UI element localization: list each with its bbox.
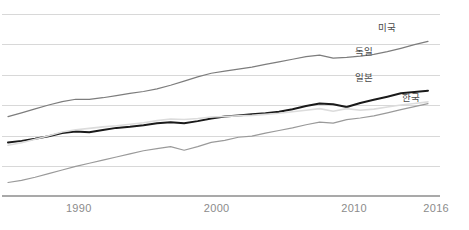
line-chart: 1990200020102016 미국독일일본한국 bbox=[0, 0, 469, 230]
chart-canvas bbox=[0, 0, 469, 230]
series-line-일본 bbox=[8, 102, 428, 145]
series-lines-group bbox=[8, 41, 428, 182]
series-line-한국 bbox=[8, 104, 428, 183]
x-tick-label-2016: 2016 bbox=[423, 202, 449, 214]
x-tick-label-1990: 1990 bbox=[66, 202, 92, 214]
x-tick-label-2010: 2010 bbox=[341, 202, 367, 214]
series-label-usa: 미국 bbox=[378, 20, 396, 34]
series-label-korea: 한국 bbox=[402, 90, 420, 104]
x-tick-label-2000: 2000 bbox=[204, 202, 230, 214]
series-label-japan: 일본 bbox=[355, 70, 373, 84]
series-label-germany: 독일 bbox=[355, 44, 373, 58]
gridlines-group bbox=[2, 14, 440, 167]
